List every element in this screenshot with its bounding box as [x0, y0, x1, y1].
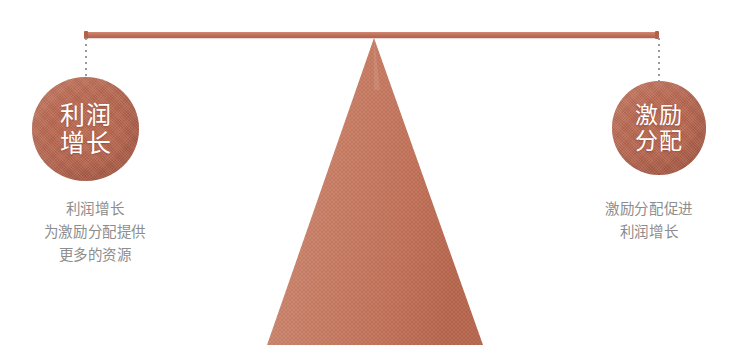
incentive-allocation-node-line-1: 激励 [635, 102, 683, 128]
incentive-allocation-node-line-2: 分配 [635, 128, 683, 154]
profit-growth-caption-line-3: 更多的资源 [0, 244, 190, 267]
profit-growth-caption-line-1: 利润增长 [0, 198, 190, 221]
incentive-allocation-caption-line-2: 利润增长 [560, 221, 738, 244]
incentive-allocation-caption-line-1: 激励分配促进 [560, 198, 738, 221]
balance-diagram-canvas: 利润 增长 激励 分配 利润增长 为激励分配提供 更多的资源 激励分配促进 利润… [0, 0, 738, 359]
incentive-allocation-caption: 激励分配促进 利润增长 [560, 198, 738, 244]
profit-growth-node-line-2: 增长 [60, 129, 112, 157]
drop-line-right [658, 38, 660, 84]
profit-growth-caption: 利润增长 为激励分配提供 更多的资源 [0, 198, 190, 267]
incentive-allocation-node[interactable]: 激励 分配 [612, 81, 706, 175]
drop-line-left [85, 38, 87, 80]
fulcrum-triangle [258, 30, 492, 350]
profit-growth-node[interactable]: 利润 增长 [32, 77, 139, 181]
profit-growth-caption-line-2: 为激励分配提供 [0, 221, 190, 244]
profit-growth-node-line-1: 利润 [60, 101, 112, 129]
